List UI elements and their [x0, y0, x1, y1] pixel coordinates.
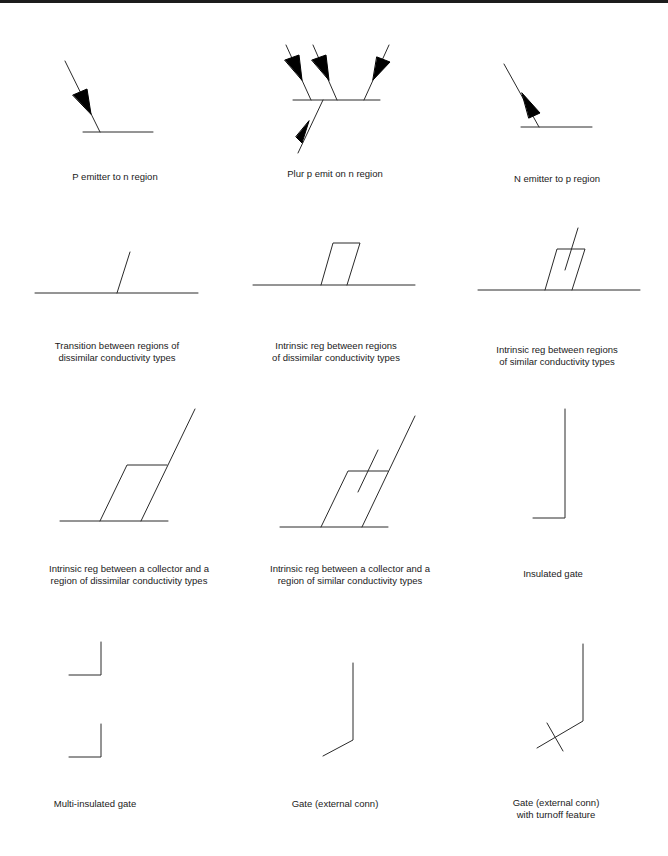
caption-plural-p-emitter: Plur p emit on n region [287, 168, 383, 180]
caption-line: Transition between regions of [55, 340, 179, 352]
caption-line: Intrinsic reg between regions [496, 344, 617, 356]
caption-line: of dissimilar conductivity types [272, 352, 400, 364]
p-emitter-symbol [65, 61, 153, 132]
caption-line: N emitter to p region [514, 173, 600, 185]
intrinsic-region [100, 465, 167, 521]
gate-line [537, 644, 583, 748]
caption-intrinsic-dissimilar: Intrinsic reg between regions of dissimi… [272, 340, 400, 364]
caption-intrinsic-collector-dissimilar: Intrinsic reg between a collector and a … [49, 563, 209, 587]
caption-n-emitter: N emitter to p region [514, 173, 600, 185]
gate-line [69, 724, 101, 757]
arrowhead-icon [285, 55, 302, 80]
caption-line: Insulated gate [523, 568, 583, 580]
caption-intrinsic-similar: Intrinsic reg between regions of similar… [496, 344, 617, 368]
transition-dissimilar-symbol [35, 252, 198, 293]
arrowhead-icon [373, 57, 390, 80]
caption-line: region of dissimilar conductivity types [49, 575, 209, 587]
intrinsic-similar-symbol [478, 228, 640, 290]
intrinsic-region [321, 471, 388, 527]
caption-line: Plur p emit on n region [287, 168, 383, 180]
caption-line: Gate (external conn) [513, 797, 600, 809]
transition-line [117, 252, 130, 293]
plural-p-emitter-symbol [285, 45, 390, 153]
gate-line [69, 642, 101, 675]
caption-p-emitter: P emitter to n region [72, 171, 157, 183]
caption-insulated-gate: Insulated gate [523, 568, 583, 580]
gate-external-symbol [323, 663, 353, 756]
caption-line: Multi-insulated gate [54, 798, 136, 810]
arrowhead-icon [296, 121, 309, 143]
caption-line: Intrinsic reg between a collector and a [270, 563, 430, 575]
caption-gate-external-turnoff: Gate (external conn) with turnoff featur… [513, 797, 600, 821]
caption-line: dissimilar conductivity types [55, 352, 179, 364]
n-emitter-symbol [504, 64, 592, 127]
emitter-lead [504, 64, 539, 127]
intrinsic-collector-dissimilar-symbol [60, 409, 195, 521]
symbol-diagram [0, 0, 668, 856]
gate-external-turnoff-symbol [537, 644, 583, 751]
caption-line: Intrinsic reg between a collector and a [49, 563, 209, 575]
arrowhead-icon [73, 89, 91, 114]
intrinsic-dissimilar-symbol [253, 243, 415, 285]
gate-line [323, 663, 353, 756]
caption-line: region of similar conductivity types [270, 575, 430, 587]
caption-line: of similar conductivity types [496, 356, 617, 368]
insulated-gate-symbol [533, 409, 565, 518]
caption-line: P emitter to n region [72, 171, 157, 183]
caption-line: Intrinsic reg between regions [272, 340, 400, 352]
caption-multi-insulated-gate: Multi-insulated gate [54, 798, 136, 810]
turnoff-cross [547, 723, 563, 751]
caption-intrinsic-collector-similar: Intrinsic reg between a collector and a … [270, 563, 430, 587]
arrowhead-icon [312, 55, 329, 80]
caption-line: with turnoff feature [513, 809, 600, 821]
arrowhead-icon [522, 93, 540, 118]
caption-transition-dissimilar: Transition between regions of dissimilar… [55, 340, 179, 364]
emitter-lead [298, 100, 323, 153]
caption-gate-external: Gate (external conn) [292, 798, 379, 810]
intrinsic-collector-similar-symbol [280, 416, 415, 527]
multi-insulated-gate-symbol [69, 642, 101, 757]
caption-line: Gate (external conn) [292, 798, 379, 810]
gate-line [533, 409, 565, 518]
intrinsic-region [321, 243, 360, 285]
